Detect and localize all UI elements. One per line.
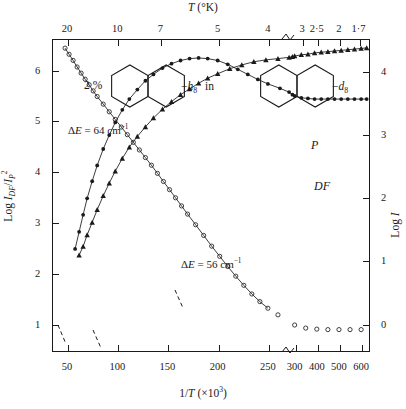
left-tick-6: 6 [35,64,40,75]
figure-container: T (°K) 1/T (×103) Log IDF/IP2 Log I 2010… [0,0,406,409]
right-tick-4: 4 [381,65,386,76]
top-tick-2-5: 2·5 [310,23,324,34]
axis-tick [168,345,169,351]
right-axis-title: Log I [390,212,402,237]
bottom-axis-title: 1/T (×103) [179,386,227,399]
bottom-tick-400: 400 [309,361,325,372]
bottom-tick-200: 200 [210,361,226,372]
top-axis-title: T (°K) [188,2,218,14]
axis-tick [68,345,69,351]
axis-tick [340,40,341,46]
top-tick-3: 3 [299,23,304,34]
guest-label: −d8 [332,81,348,95]
axis-tick [53,71,59,72]
left-tick-1: 1 [35,319,40,330]
in-word-label: in [205,81,214,93]
axis-tick [362,345,363,351]
axis-tick [53,121,59,122]
axis-tick [269,345,270,351]
axis-tick [303,40,304,46]
axis-tick [363,198,369,199]
axis-tick [219,345,220,351]
axis-tick [219,40,220,46]
bottom-tick-100: 100 [109,361,125,372]
axis-tick [318,345,319,351]
right-tick-2: 2 [381,192,386,203]
axis-tick [363,72,369,73]
delta-e-upper-label: ΔE = 64 cm−1 [68,124,128,136]
axis-tick [269,40,270,46]
right-tick-1: 1 [381,255,386,266]
left-tick-2: 2 [35,268,40,279]
left-axis-title: Log IDF/IP2 [1,170,17,221]
host-label: −h8 [181,81,197,95]
axis-tick [363,135,369,136]
left-tick-3: 3 [35,217,40,228]
axis-tick [118,40,119,46]
axis-tick [53,274,59,275]
axis-tick [296,345,297,351]
left-tick-4: 4 [35,166,40,177]
bottom-tick-50: 50 [62,361,73,372]
left-tick-5: 5 [35,115,40,126]
axis-tick [53,172,59,173]
top-tick-4: 4 [265,23,270,34]
top-tick-5: 5 [215,23,220,34]
right-tick-3: 3 [381,128,386,139]
axis-tick [340,345,341,351]
top-tick-7: 7 [158,23,163,34]
top-tick-10: 10 [112,23,123,34]
bottom-tick-150: 150 [160,361,176,372]
bottom-tick-250: 250 [260,361,276,372]
concentration-label: 2 % [84,80,102,92]
top-tick-20: 20 [62,23,73,34]
axis-tick [363,261,369,262]
bottom-tick-600: 600 [353,361,369,372]
curve-label-p: P [311,139,318,151]
top-tick-1-7: 1·7 [352,23,366,34]
axis-tick [53,223,59,224]
delta-e-lower-label: ΔE = 56 cm−1 [181,258,241,270]
axis-tick [53,325,59,326]
axis-tick [360,40,361,46]
bottom-tick-500: 500 [331,361,347,372]
curve-label-df: DF [314,180,330,192]
axis-tick [363,325,369,326]
right-tick-0: 0 [381,318,386,329]
axis-tick [161,40,162,46]
bottom-tick-300: 300 [287,361,303,372]
top-tick-2: 2 [336,23,341,34]
axis-tick [118,345,119,351]
axis-tick [68,40,69,46]
axis-tick [318,40,319,46]
